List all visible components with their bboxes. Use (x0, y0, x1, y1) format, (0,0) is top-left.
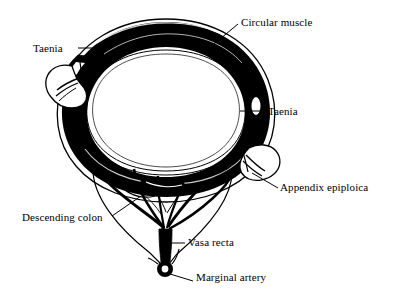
label-circular-muscle: Circular muscle (241, 17, 312, 28)
taenia-right-inner-white (252, 97, 261, 115)
label-vasa-recta: Vasa recta (188, 237, 234, 248)
label-taenia-right: Taenia (268, 106, 298, 117)
label-marginal-artery: Marginal artery (196, 272, 266, 283)
lumen (93, 54, 240, 167)
label-appendix-epiploica: Appendix epiploica (280, 182, 368, 193)
vasa-recta-trunk (163, 226, 165, 262)
label-taenia-left: Taenia (33, 43, 63, 54)
marginal-artery-lumen (162, 266, 169, 273)
label-descending-colon: Descending colon (22, 212, 103, 223)
anatomy-figure: Circular muscle Taenia Taenia Appendix e… (0, 0, 394, 302)
